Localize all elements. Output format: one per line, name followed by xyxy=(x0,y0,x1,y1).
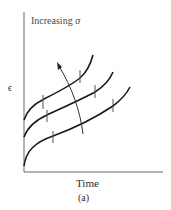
curve-low-stress xyxy=(24,87,130,166)
arrowhead-icon xyxy=(57,62,62,70)
y-axis-label: ϵ xyxy=(8,82,12,93)
chart-annotation: Increasing σ xyxy=(31,15,80,26)
figure-caption: (a) xyxy=(78,192,89,203)
curve-medium-stress xyxy=(24,72,113,137)
x-axis-label: Time xyxy=(76,177,99,189)
